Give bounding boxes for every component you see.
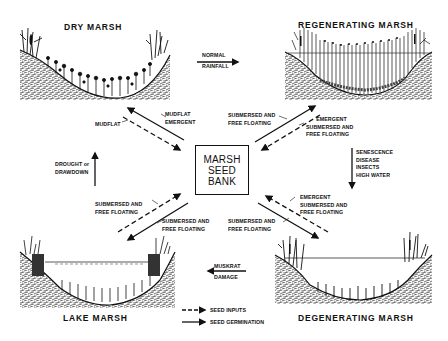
drought-drawdown-label: DROUGHT or DRAWDOWN — [55, 160, 89, 175]
normal-rainfall-label: NORMAL RAINFALL — [202, 51, 229, 69]
regen-germination-label: SUBMERSED AND FREE FLOATING — [228, 111, 275, 126]
lake-input-label: SUBMERSED AND FREE FLOATING — [95, 200, 142, 215]
legend-seed-germination: SEED GERMINATION — [210, 318, 264, 326]
dry-germination-label: MUDFLAT EMERGENT — [165, 110, 195, 125]
regen-input-label: EMERGENT SUBMERSED AND FREE FLOATING — [306, 115, 353, 138]
dry-marsh-illustration — [20, 28, 170, 100]
marsh-seed-bank-box: MARSH SEED BANK — [195, 145, 249, 195]
lake-marsh-illustration — [20, 236, 175, 308]
lake-marsh-title: LAKE MARSH — [63, 313, 128, 323]
marsh-seed-bank-diagram: DRY MARSH REGENERATING MARSH LAKE MARSH … — [0, 0, 448, 341]
seed-bank-line3: BANK — [208, 176, 236, 187]
legend-seed-inputs: SEED INPUTS — [210, 306, 246, 314]
seed-bank-line2: SEED — [208, 165, 236, 176]
dry-marsh-title: DRY MARSH — [64, 22, 122, 32]
degenerating-marsh-illustration — [275, 232, 432, 304]
regenerating-marsh-illustration — [285, 28, 432, 100]
regenerating-marsh-title: REGENERATING MARSH — [298, 20, 414, 30]
degen-input-label: EMERGENT SUBMERSED AND FREE FLOATING — [300, 193, 347, 216]
degen-germination-label: SUBMERSED AND FREE FLOATING — [228, 217, 275, 232]
lake-germination-label: SUBMERSED AND FREE FLOATING — [162, 217, 209, 232]
degenerating-marsh-title: DEGENERATING MARSH — [298, 313, 414, 323]
muskrat-damage-label: MUSKRAT DAMAGE — [214, 262, 241, 280]
seed-bank-line1: MARSH — [203, 154, 240, 165]
senescence-label: SENESCENCE DISEASE INSECTS HIGH WATER — [356, 148, 393, 178]
dry-input-label: MUDFLAT — [95, 120, 121, 128]
